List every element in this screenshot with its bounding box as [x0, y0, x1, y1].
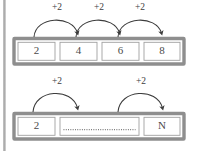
bottom-row-group: 2 N +2 +2: [14, 76, 184, 139]
cell-4-label: 4: [76, 44, 82, 56]
top-row-group: 2 4 6 8 +2 +2 +2: [14, 2, 184, 64]
top-bar-cells: [18, 42, 180, 60]
cell-2-label: 2: [34, 44, 40, 56]
step-label-bottom-1: +2: [52, 76, 62, 86]
cell-start-label: 2: [34, 119, 40, 131]
diagram-canvas: 2 4 6 8 +2 +2 +2 2: [0, 0, 198, 151]
arrow-start-to-middle: [33, 93, 78, 112]
arrow-middle-to-n: [118, 93, 163, 112]
step-label-top-1: +2: [52, 2, 62, 12]
arrow-4-to-6: [76, 20, 120, 37]
cell-8-label: 8: [159, 44, 165, 56]
step-label-top-3: +2: [135, 2, 145, 12]
step-label-bottom-2: +2: [136, 76, 146, 86]
step-label-top-2: +2: [94, 2, 104, 12]
cell-6-label: 6: [118, 44, 124, 56]
cell-ellipsis-box: [60, 117, 139, 135]
arrow-6-to-8: [118, 20, 162, 37]
cell-n-label: N: [158, 119, 166, 131]
bottom-bar-cells: [18, 117, 180, 135]
sequence-diagram: 2 4 6 8 +2 +2 +2 2: [0, 0, 198, 151]
arrow-2-to-4: [34, 20, 78, 37]
